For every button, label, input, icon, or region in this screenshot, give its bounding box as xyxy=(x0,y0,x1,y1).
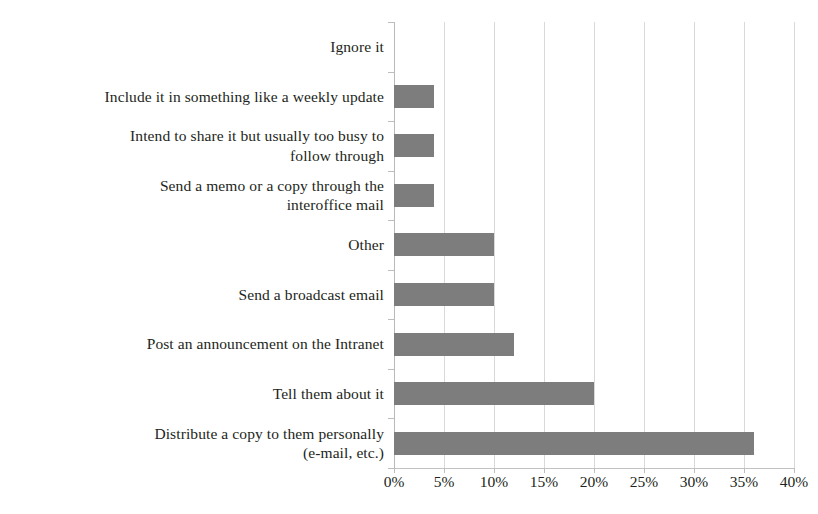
x-axis-tick-label-0%: 0% xyxy=(384,474,405,490)
bar-rows xyxy=(394,22,794,468)
x-axis-tick-label-35%: 35% xyxy=(730,474,758,490)
y-axis-label-6: Post an announcement on the Intranet xyxy=(0,319,384,369)
bar-8 xyxy=(394,432,754,455)
plot-area xyxy=(394,22,794,468)
y-axis-label-2: Intend to share it but usually too busy … xyxy=(0,121,384,171)
y-axis-label-5-line-0: Send a broadcast email xyxy=(238,285,384,304)
y-axis-label-3-line-1: interoffice mail xyxy=(160,195,384,214)
bar-2 xyxy=(394,134,434,157)
bar-row xyxy=(394,418,794,468)
bar-row xyxy=(394,22,794,72)
y-axis-label-3-line-0: Send a memo or a copy through the xyxy=(160,176,384,195)
y-axis-label-7-line-0: Tell them about it xyxy=(273,384,384,403)
y-axis-label-3: Send a memo or a copy through the intero… xyxy=(0,171,384,221)
y-axis-label-8-line-0: Distribute a copy to them personally xyxy=(154,424,384,443)
x-axis-tick-label-10%: 10% xyxy=(480,474,508,490)
y-axis-label-2-line-0: Intend to share it but usually too busy … xyxy=(130,126,384,145)
y-axis-label-0-line-0: Ignore it xyxy=(330,37,384,56)
x-axis-tick-label-25%: 25% xyxy=(630,474,658,490)
bar-6 xyxy=(394,333,514,356)
y-axis-label-8: Distribute a copy to them personally (e-… xyxy=(0,418,384,468)
y-axis-label-4-line-0: Other xyxy=(348,235,384,254)
y-axis-label-0: Ignore it xyxy=(0,22,384,72)
bar-5 xyxy=(394,283,494,306)
y-axis-label-5: Send a broadcast email xyxy=(0,270,384,320)
gridline-40% xyxy=(794,22,795,468)
bar-row xyxy=(394,171,794,221)
bar-row xyxy=(394,319,794,369)
x-axis-tick-label-15%: 15% xyxy=(530,474,558,490)
y-axis-label-7: Tell them about it xyxy=(0,369,384,419)
bar-4 xyxy=(394,233,494,256)
x-axis-tick-labels: 0%5%10%15%20%25%30%35%40% xyxy=(0,474,818,502)
y-axis-label-8-line-1: (e-mail, etc.) xyxy=(154,443,384,462)
bar-3 xyxy=(394,184,434,207)
horizontal-bar-chart: Ignore it Include it in something like a… xyxy=(0,0,818,514)
y-axis-category-labels: Ignore it Include it in something like a… xyxy=(0,22,384,468)
bar-row xyxy=(394,220,794,270)
x-axis-tick-label-5%: 5% xyxy=(434,474,455,490)
bar-7 xyxy=(394,382,594,405)
y-axis-label-2-line-1: follow through xyxy=(130,146,384,165)
x-axis-tick-label-30%: 30% xyxy=(680,474,708,490)
bar-row xyxy=(394,270,794,320)
y-axis-label-1-line-0: Include it in something like a weekly up… xyxy=(105,87,384,106)
x-axis-tick-label-20%: 20% xyxy=(580,474,608,490)
x-axis-tick-label-40%: 40% xyxy=(780,474,808,490)
bar-row xyxy=(394,121,794,171)
bar-row xyxy=(394,369,794,419)
y-axis-label-4: Other xyxy=(0,220,384,270)
y-axis-label-6-line-0: Post an announcement on the Intranet xyxy=(147,334,384,353)
y-axis-label-1: Include it in something like a weekly up… xyxy=(0,72,384,122)
bar-1 xyxy=(394,85,434,108)
bar-row xyxy=(394,72,794,122)
